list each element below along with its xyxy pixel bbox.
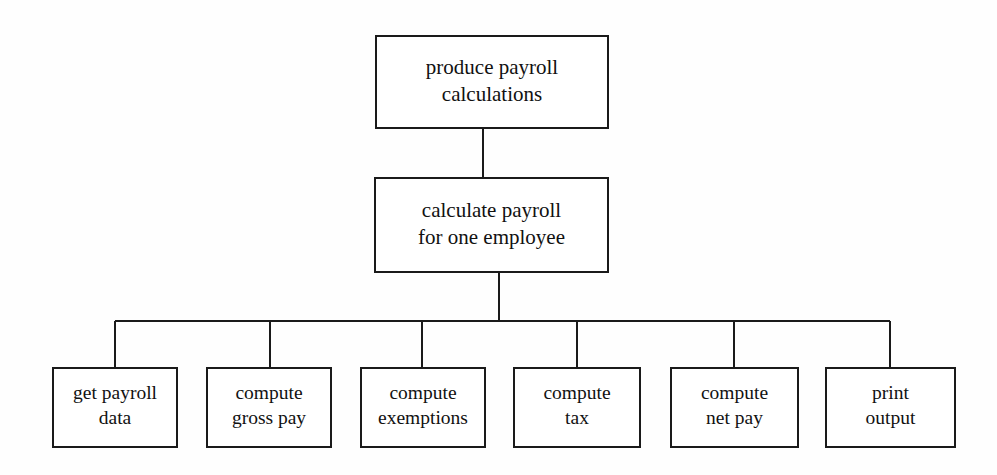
node-label-line: exemptions bbox=[378, 407, 468, 428]
node-label-line: produce payroll bbox=[426, 54, 559, 78]
node-label-line: compute bbox=[701, 382, 768, 403]
node-produce-payroll-calculations: produce payrollcalculations bbox=[376, 36, 608, 128]
node-label-line: data bbox=[99, 407, 132, 428]
node-calculate-payroll-for-one-employee: calculate payrollfor one employee bbox=[375, 178, 608, 272]
node-compute-net-pay: computenet pay bbox=[671, 368, 798, 447]
node-print-output: printoutput bbox=[826, 368, 955, 447]
structure-chart: produce payrollcalculationscalculate pay… bbox=[0, 0, 997, 475]
node-label-line: output bbox=[866, 407, 916, 428]
node-label-line: print bbox=[872, 382, 909, 403]
node-label-line: for one employee bbox=[418, 224, 565, 248]
node-label-line: gross pay bbox=[232, 407, 306, 428]
node-compute-gross-pay: computegross pay bbox=[207, 368, 331, 447]
node-get-payroll-data: get payrolldata bbox=[53, 368, 177, 447]
node-label-line: net pay bbox=[706, 407, 763, 428]
node-compute-exemptions: computeexemptions bbox=[361, 368, 485, 447]
node-label-line: compute bbox=[389, 382, 456, 403]
node-label-line: compute bbox=[543, 382, 610, 403]
node-label-line: calculations bbox=[442, 81, 542, 105]
node-layer: produce payrollcalculationscalculate pay… bbox=[53, 36, 955, 447]
node-label-line: get payroll bbox=[73, 382, 158, 403]
node-compute-tax: computetax bbox=[514, 368, 640, 447]
node-label-line: tax bbox=[565, 407, 589, 428]
node-label-line: compute bbox=[235, 382, 302, 403]
structure-chart-canvas: produce payrollcalculationscalculate pay… bbox=[0, 0, 997, 475]
node-label-line: calculate payroll bbox=[422, 197, 562, 221]
